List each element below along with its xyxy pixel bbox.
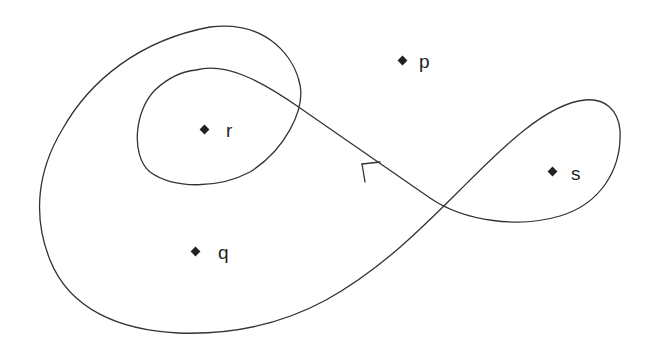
closed-curve [40,26,621,333]
point-p: p [398,51,430,72]
point-marker-icon [191,247,201,257]
point-marker-icon [200,125,210,135]
winding-diagram: p r s q [0,0,652,355]
point-label-p: p [419,51,430,72]
point-r: r [200,120,233,141]
point-marker-icon [398,56,408,66]
point-marker-icon [548,167,558,177]
point-q: q [191,242,229,263]
point-label-q: q [218,242,229,263]
point-s: s [548,163,581,184]
direction-arrow-icon [362,162,380,182]
point-label-r: r [226,120,233,141]
point-label-s: s [571,163,581,184]
